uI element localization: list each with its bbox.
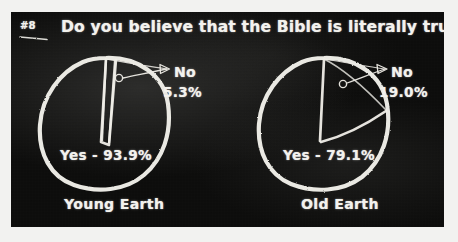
chart-category-label-old-earth: Old Earth [301, 196, 379, 212]
pie-slice-callout-value-no-young-earth: 5.3% [163, 84, 202, 100]
pie-slice-label-yes-young-earth: Yes - 93.9% [60, 147, 152, 163]
pie-slice-callout-value-no-old-earth: 19.0% [379, 84, 428, 100]
chalk-vector-graphics [11, 12, 444, 227]
chalkboard-panel: #8 Do you believe that the Bible is lite… [11, 12, 444, 227]
slide-number-underline [20, 37, 47, 40]
pie-chart-old-earth [259, 58, 388, 190]
pie-chart-young-earth [40, 58, 170, 190]
slide-number-label: #8 [20, 20, 36, 31]
pie-slice-label-yes-old-earth: Yes - 79.1% [283, 147, 375, 163]
screenshot-root: #8 Do you believe that the Bible is lite… [0, 0, 458, 242]
page-title: Do you believe that the Bible is literal… [61, 18, 444, 36]
chalk-drawing-layer: #8 Do you believe that the Bible is lite… [11, 12, 444, 227]
chart-category-label-young-earth: Young Earth [64, 196, 164, 212]
pie-slice-callout-word-no-young-earth: No [174, 64, 196, 80]
pie-slice-callout-word-no-old-earth: No [391, 64, 413, 80]
pie-wedge-no-old-earth [320, 59, 324, 141]
